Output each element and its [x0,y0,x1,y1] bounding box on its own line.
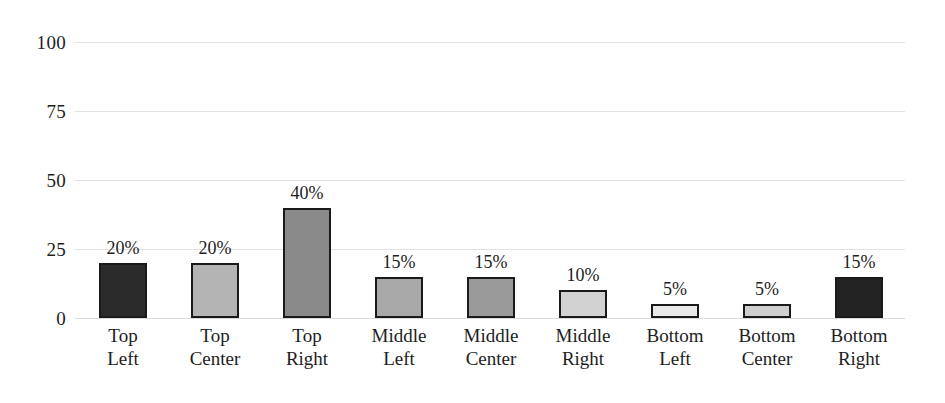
bar-top-center[interactable] [191,263,239,318]
x-label-bottom-left-line1: Bottom [627,324,723,347]
bar-value-top-right: 40% [259,184,355,202]
bar-value-top-center: 20% [167,239,263,257]
x-label-top-right-line2: Right [259,347,355,370]
bar-value-middle-center: 15% [443,253,539,271]
x-label-middle-center: Middle Center [443,324,539,370]
bar-middle-right[interactable] [559,290,607,318]
x-label-middle-right: Middle Right [535,324,631,370]
bar-value-bottom-right: 15% [811,253,907,271]
x-label-bottom-center: Bottom Center [719,324,815,370]
x-label-top-right-line1: Top [259,324,355,347]
bar-value-bottom-center: 5% [719,280,815,298]
bar-value-bottom-left: 5% [627,280,723,298]
bar-top-right[interactable] [283,208,331,318]
x-label-bottom-left-line2: Left [627,347,723,370]
bar-middle-center[interactable] [467,277,515,318]
x-label-middle-right-line1: Middle [535,324,631,347]
x-label-bottom-center-line1: Bottom [719,324,815,347]
x-label-bottom-right-line2: Right [811,347,907,370]
bar-chart: 100 75 50 25 0 20% 20% 40% [0,0,945,403]
bar-bottom-left[interactable] [651,304,699,318]
x-label-middle-left-line1: Middle [351,324,447,347]
x-label-middle-right-line2: Right [535,347,631,370]
x-label-top-left-line1: Top [75,324,171,347]
x-label-bottom-right: Bottom Right [811,324,907,370]
bar-bottom-center[interactable] [743,304,791,318]
x-label-top-right: Top Right [259,324,355,370]
x-label-bottom-left: Bottom Left [627,324,723,370]
bar-top-left[interactable] [99,263,147,318]
x-label-top-center: Top Center [167,324,263,370]
bar-middle-left[interactable] [375,277,423,318]
x-label-bottom-right-line1: Bottom [811,324,907,347]
x-label-top-left: Top Left [75,324,171,370]
x-label-middle-center-line1: Middle [443,324,539,347]
bar-value-middle-left: 15% [351,253,447,271]
x-label-top-center-line2: Center [167,347,263,370]
x-label-middle-center-line2: Center [443,347,539,370]
x-label-top-left-line2: Left [75,347,171,370]
x-label-bottom-center-line2: Center [719,347,815,370]
x-label-top-center-line1: Top [167,324,263,347]
bar-bottom-right[interactable] [835,277,883,318]
x-label-middle-left: Middle Left [351,324,447,370]
bar-value-top-left: 20% [75,239,171,257]
bar-value-middle-right: 10% [535,266,631,284]
x-label-middle-left-line2: Left [351,347,447,370]
